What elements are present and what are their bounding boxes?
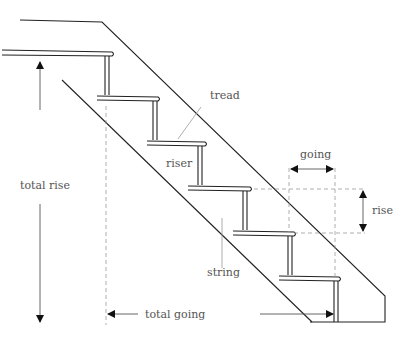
- staircase-drawing: [0, 0, 408, 341]
- label-total-rise: total rise: [20, 180, 70, 191]
- inner-string: [62, 80, 312, 322]
- dimension-lines: [106, 106, 365, 325]
- dimension-arrows: [40, 62, 363, 322]
- label-string: string: [207, 267, 240, 278]
- label-tread: tread: [210, 90, 240, 101]
- label-going: going: [300, 149, 331, 160]
- label-riser: riser: [166, 158, 192, 169]
- label-rise: rise: [372, 205, 393, 216]
- label-total-going: total going: [145, 309, 205, 320]
